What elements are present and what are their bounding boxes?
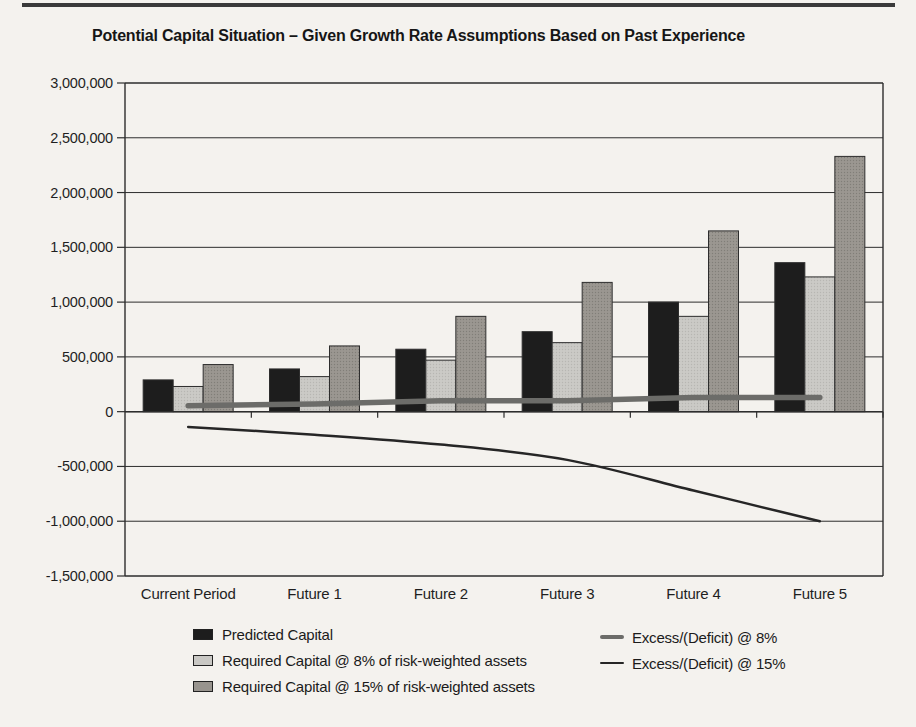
- y-tick-label: 0: [105, 404, 113, 420]
- bar-2-2: [456, 316, 486, 411]
- legend-label: Predicted Capital: [222, 626, 333, 643]
- bar-2-4: [709, 231, 739, 412]
- y-tick-label: 3,000,000: [50, 75, 113, 91]
- y-tick-label: 2,000,000: [50, 185, 113, 201]
- y-tick-label: -1,500,000: [46, 568, 113, 584]
- x-category-label: Future 3: [540, 585, 594, 602]
- legend-bar-series: Predicted Capital Required Capital @ 8% …: [193, 626, 535, 694]
- y-gridlines: [125, 83, 883, 576]
- legend-item-required-capital-15: Required Capital @ 15% of risk-weighted …: [193, 678, 535, 694]
- y-tick-label: -500,000: [57, 458, 113, 474]
- legend-item-excess-8: Excess/(Deficit) @ 8%: [600, 629, 785, 645]
- excess-deficit-8-line-icon: [600, 635, 624, 640]
- required-capital-8-swatch-icon: [193, 655, 213, 666]
- y-axis-tick-labels: 3,000,0002,500,0002,000,0001,500,0001,00…: [46, 75, 125, 584]
- x-category-label: Future 2: [414, 585, 468, 602]
- x-category-label: Future 5: [793, 585, 847, 602]
- bar-1-5: [805, 277, 835, 412]
- bar-0-5: [775, 263, 805, 412]
- legend-label: Excess/(Deficit) @ 8%: [632, 629, 777, 646]
- x-category-label: Future 4: [666, 585, 720, 602]
- legend-label: Required Capital @ 8% of risk-weighted a…: [222, 652, 527, 669]
- predicted-capital-swatch-icon: [193, 629, 213, 640]
- legend-label: Required Capital @ 15% of risk-weighted …: [222, 678, 535, 695]
- legend-item-predicted-capital: Predicted Capital: [193, 626, 535, 642]
- bar-groups: [143, 156, 865, 411]
- excess-deficit-15-line-icon: [600, 662, 624, 665]
- excess-deficit-15-line: [188, 427, 820, 521]
- legend-label: Excess/(Deficit) @ 15%: [632, 655, 785, 672]
- y-tick-label: 1,000,000: [50, 294, 113, 310]
- capital-situation-chart: 3,000,0002,500,0002,000,0001,500,0001,00…: [0, 0, 916, 620]
- x-category-label: Future 1: [287, 585, 341, 602]
- legend-item-required-capital-8: Required Capital @ 8% of risk-weighted a…: [193, 652, 535, 668]
- scanned-chart-page: Potential Capital Situation – Given Grow…: [0, 0, 916, 727]
- y-tick-label: 500,000: [62, 349, 113, 365]
- bar-0-0: [143, 380, 173, 412]
- required-capital-15-swatch-icon: [193, 681, 213, 692]
- legend-line-series: Excess/(Deficit) @ 8% Excess/(Deficit) @…: [600, 629, 785, 671]
- x-axis-category-labels: Current PeriodFuture 1Future 2Future 3Fu…: [141, 585, 847, 602]
- y-tick-label: 2,500,000: [50, 130, 113, 146]
- legend-item-excess-15: Excess/(Deficit) @ 15%: [600, 655, 785, 671]
- y-tick-label: 1,500,000: [50, 239, 113, 255]
- x-category-label: Current Period: [141, 585, 236, 602]
- category-axis: [125, 412, 883, 418]
- bar-2-3: [582, 282, 612, 411]
- bar-1-2: [426, 360, 456, 411]
- y-tick-label: -1,000,000: [46, 513, 113, 529]
- bar-2-5: [835, 156, 865, 411]
